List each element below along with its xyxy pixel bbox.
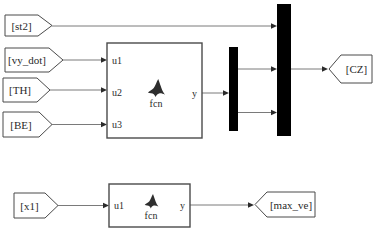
from-tag-be-label: [BE] <box>10 119 31 131</box>
arrow-into-u1 <box>101 57 107 62</box>
from-tag-x1-label: [x1] <box>20 200 38 212</box>
arrow-into-cz <box>322 66 328 71</box>
arrow-into-maxve <box>248 202 254 207</box>
from-tag-st2-label: [st2] <box>11 20 31 32</box>
goto-tag-cz[interactable]: [CZ] <box>329 55 372 83</box>
arrow-into-mux-3 <box>271 110 277 115</box>
arrow-into-u1b <box>103 203 109 208</box>
arrow-into-u3 <box>101 122 107 127</box>
demux-bar[interactable] <box>229 47 238 131</box>
from-tag-vy-dot[interactable]: [vy_dot] <box>5 48 63 72</box>
matlab-function-block-2[interactable]: u1 y fcn <box>109 184 190 227</box>
from-tag-vy-dot-label: [vy_dot] <box>8 54 46 66</box>
goto-tag-cz-label: [CZ] <box>346 63 367 75</box>
fcn2-port-u1: u1 <box>114 200 124 211</box>
arrow-into-demux <box>223 90 229 95</box>
fcn1-port-u2: u2 <box>112 87 122 98</box>
from-tag-be[interactable]: [BE] <box>3 112 52 137</box>
fcn1-port-y: y <box>192 88 197 99</box>
fcn1-label: fcn <box>150 98 163 109</box>
arrow-into-mux-1 <box>271 23 277 28</box>
from-tag-th[interactable]: [TH] <box>3 78 50 102</box>
fcn1-port-u1: u1 <box>112 55 122 66</box>
diagram-svg: [st2] [vy_dot] [TH] [BE] [x1] u1 u2 u3 y… <box>0 0 381 232</box>
from-tag-x1[interactable]: [x1] <box>14 193 58 218</box>
from-tag-th-label: [TH] <box>9 84 31 96</box>
arrow-into-mux-2 <box>271 66 277 71</box>
model-canvas: [st2] [vy_dot] [TH] [BE] [x1] u1 u2 u3 y… <box>0 0 381 232</box>
fcn2-label: fcn <box>145 210 158 221</box>
goto-tag-max-ve[interactable]: [max_ve] <box>255 192 315 217</box>
goto-tag-max-ve-label: [max_ve] <box>270 199 312 211</box>
from-tag-st2[interactable]: [st2] <box>5 15 52 36</box>
fcn2-port-y: y <box>180 200 185 211</box>
mux-bar[interactable] <box>277 4 291 136</box>
fcn1-port-u3: u3 <box>112 119 122 130</box>
arrow-into-u2 <box>101 87 107 92</box>
matlab-function-block-1[interactable]: u1 u2 u3 y fcn <box>107 43 202 138</box>
